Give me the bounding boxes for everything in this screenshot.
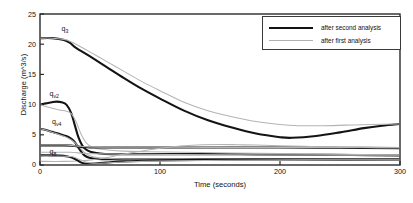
curve-label-qv4: qv4 [52, 118, 61, 127]
legend-label-1: after first analysis [321, 36, 371, 46]
curve-label-q3: q3 [62, 25, 69, 34]
legend-label-0: after second analysis [321, 23, 381, 33]
figure-discharge-vs-time: Discharge (m^3/s) Time (seconds) 25 20 1… [0, 0, 413, 203]
legend-line-thin-icon [269, 40, 313, 41]
curve-1 [40, 38, 400, 126]
figure-caption [0, 194, 413, 203]
curve-label-qv2: qv2 [50, 90, 59, 99]
legend-entry-after-first-analysis: after first analysis [269, 36, 395, 46]
curve-label-q8: q8 [50, 148, 57, 157]
legend-line-thick-icon [269, 27, 313, 29]
legend-entry-after-second-analysis: after second analysis [269, 23, 395, 33]
curve-10 [40, 145, 400, 148]
legend: after second analysis after first analys… [262, 16, 401, 50]
curve-0 [40, 38, 400, 138]
data-curves [40, 38, 400, 164]
